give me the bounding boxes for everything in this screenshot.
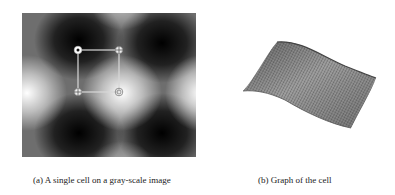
corner-marker-bottom-left[interactable]	[74, 88, 81, 95]
caption-b: (b) Graph of the cell	[258, 175, 331, 185]
corner-marker-top-left[interactable]	[74, 46, 82, 54]
corner-marker-top-right[interactable]	[115, 46, 122, 53]
caption-a: (a) A single cell on a gray-scale image	[33, 175, 171, 185]
cell-outline	[78, 50, 119, 92]
cell-overlay	[0, 0, 200, 170]
surface-plot	[230, 30, 390, 140]
